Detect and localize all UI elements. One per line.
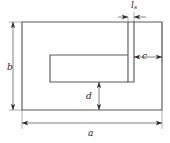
dimension-label-ls-subscript: s bbox=[134, 3, 137, 10]
dimension-label-b: b bbox=[7, 63, 13, 72]
extension-lines bbox=[9, 12, 162, 129]
dimension-label-a: a bbox=[88, 129, 93, 138]
engineering-drawing-figure: a b c d ls bbox=[0, 0, 170, 143]
dimension-lines bbox=[13, 17, 162, 123]
dimension-label-ls: ls bbox=[131, 1, 137, 10]
dimension-label-c: c bbox=[142, 52, 147, 61]
part-outline bbox=[22, 22, 162, 110]
outer-boundary-path bbox=[22, 22, 162, 110]
dimension-label-d: d bbox=[86, 92, 92, 101]
figure-canvas bbox=[0, 0, 170, 143]
slot-neck-right-edge bbox=[128, 22, 134, 82]
